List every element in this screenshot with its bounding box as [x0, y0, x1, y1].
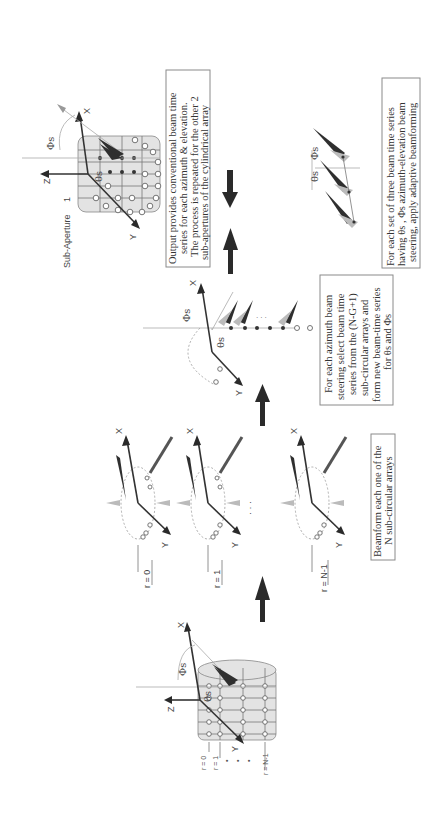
caption-azimuth-beam-selection: For each azimuth beam steering select be… [320, 275, 393, 405]
phi-s-label: Φs [309, 147, 320, 160]
y-axis-label: Y [128, 234, 138, 240]
svg-text:for θs and Φs: for θs and Φs [382, 314, 393, 370]
svg-text:Φs: Φs [181, 309, 192, 322]
beamforming-process-diagram: Z X Y Φs θs r = 0 r = 1 • • • r = N-1 [0, 0, 426, 833]
sub-circular-array-r0: r = 0 X Y [106, 428, 172, 588]
z-axis-label: Z [166, 706, 176, 712]
sub-aperture-number: 1 [62, 197, 72, 202]
svg-text:Y: Y [160, 542, 170, 548]
svg-text:X: X [114, 428, 124, 434]
stage-sub-circular-arrays: r = 0 X Y r = 1 X Y · · · [106, 428, 395, 592]
y-axis-label: Y [230, 746, 240, 752]
theta-s-label: θs [202, 691, 213, 702]
svg-text:N sub-circular arrays: N sub-circular arrays [383, 456, 394, 545]
svg-text:For each set of three beam tim: For each set of three beam time series [385, 107, 396, 266]
z-axis-arrowhead [164, 696, 172, 704]
x-axis-label: X [82, 108, 92, 114]
svg-text:sub-apertures of the cylindric: sub-apertures of the cylindrical array [199, 104, 210, 260]
svg-text:series for each azimuth & elev: series for each azimuth & elevation. [178, 102, 189, 254]
svg-text:steering, apply adaptive beamf: steering, apply adaptive beamforming [407, 102, 418, 262]
theta-s-label: θs [93, 171, 104, 182]
z-axis-label: Z [42, 178, 52, 184]
svg-text:X: X [185, 428, 195, 434]
ring-label-r0: r = 0 [142, 570, 152, 588]
svg-text:having θs , Φs azimuth-elevati: having θs , Φs azimuth-elevation beam [396, 102, 407, 266]
sub-aperture-title: Sub-Aperture [62, 214, 72, 268]
svg-text:· · ·: · · · [256, 314, 267, 321]
sub-circular-array-r1: r = 1 X Y [176, 428, 242, 588]
svg-text:steering select beam time: steering select beam time [335, 293, 346, 400]
stage-adaptive-beamforming: Φs θs For each set of three beam time se… [309, 78, 420, 268]
selected-beams: · · · [218, 300, 313, 331]
flow-arrow-2 [255, 384, 270, 426]
svg-text:•: • [234, 759, 241, 762]
svg-text:sub-circular arrays and: sub-circular arrays and [359, 299, 370, 396]
flow-arrow-1 [255, 576, 270, 622]
ring-label-last: r = N-1 [262, 753, 269, 775]
svg-text:Beamform each one of the: Beamform each one of the [372, 445, 383, 557]
caption-beamform-sub-circular: Beamform each one of the N sub-circular … [371, 434, 395, 560]
stage-sub-aperture-output: Z X Y Φs θs Sub-Aperture 1 Output provid… [22, 70, 210, 268]
svg-text:•: • [223, 759, 230, 762]
svg-text:Output provides conventional b: Output provides conventional beam time [167, 92, 178, 264]
ring-label-rN-1: r = N-1 [319, 564, 329, 592]
svg-text:X: X [188, 280, 198, 286]
svg-text:θs: θs [215, 337, 226, 348]
svg-text:X: X [289, 428, 299, 434]
stage-azimuth-beam-selection: · · · X Y Φs θs For each azimuth beam st… [143, 275, 393, 405]
ellipsis: · · · [245, 501, 255, 515]
svg-text:Y: Y [230, 542, 240, 548]
flow-arrow-4 [222, 170, 238, 208]
stage-cylindrical-array: Z X Y Φs θs r = 0 r = 1 • • • r = N-1 [136, 622, 276, 775]
flow-arrow-3 [223, 228, 238, 274]
svg-text:•: • [245, 759, 252, 762]
svg-text:Y: Y [234, 390, 244, 396]
sub-circular-array-rN-1: r = N-1 X Y [280, 428, 346, 592]
ring-label-second: r = 1 [212, 756, 219, 770]
svg-text:For each azimuth beam: For each azimuth beam [323, 295, 334, 393]
theta-s-label: θs [309, 171, 320, 182]
z-axis-arrowhead [40, 170, 49, 178]
ring-label-r1: r = 1 [212, 570, 222, 588]
phi-s-label: Φs [177, 663, 188, 676]
ring-label-first: r = 0 [200, 756, 207, 770]
caption-adaptive-beamforming: For each set of three beam time series h… [382, 78, 420, 268]
svg-text:form new beam-time series: form new beam-time series [371, 287, 382, 402]
svg-text:series from the (N-G+1): series from the (N-G+1) [347, 293, 359, 395]
caption-sub-aperture-output: Output provides conventional beam time s… [166, 70, 210, 267]
x-axis [188, 627, 200, 700]
x-axis-label: X [176, 622, 186, 628]
phi-s-label: Φs [45, 137, 56, 150]
svg-text:Y: Y [334, 542, 344, 548]
